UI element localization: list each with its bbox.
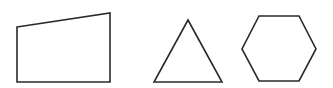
shapes-svg: [0, 0, 333, 88]
diagram-canvas: [0, 0, 333, 88]
triangle-shape: [154, 20, 222, 82]
quadrilateral-shape: [17, 13, 110, 82]
hexagon-shape: [242, 16, 316, 81]
